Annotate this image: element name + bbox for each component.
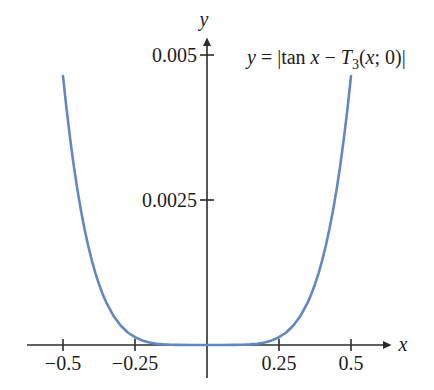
y-tick-label-00025: 0.0025 xyxy=(142,190,197,210)
equation-subscript-3: 3 xyxy=(352,57,359,72)
equation-T: T xyxy=(341,46,352,68)
x-tick-label-025: 0.25 xyxy=(262,353,297,373)
x-tick-label-05: 0.5 xyxy=(339,353,364,373)
equation-y: y xyxy=(247,46,256,68)
equation-label: y = |tan x − T3(x; 0)| xyxy=(227,27,406,87)
taylor-error-figure: y x 0.005 0.0025 −0.5 −0.25 0.25 0.5 y =… xyxy=(0,0,434,390)
y-tick-label-0005: 0.005 xyxy=(152,45,197,65)
equation-close: ; 0)| xyxy=(374,46,405,68)
x-tick-label-neg025: −0.25 xyxy=(112,353,158,373)
y-axis-letter: y xyxy=(200,9,209,29)
equation-eq-tan: = |tan xyxy=(256,46,311,68)
x-axis-letter: x xyxy=(399,334,408,354)
equation-x1: x xyxy=(311,46,320,68)
x-axis-arrow xyxy=(383,341,392,349)
x-tick-label-neg05: −0.5 xyxy=(45,353,81,373)
y-axis-arrow xyxy=(203,38,211,47)
equation-open-paren: ( xyxy=(359,46,366,68)
equation-minus: − xyxy=(320,46,341,68)
